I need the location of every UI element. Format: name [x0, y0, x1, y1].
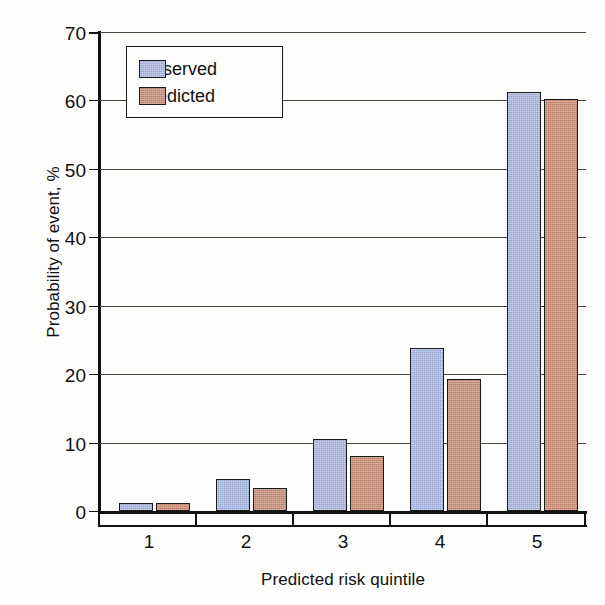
y-axis-spine	[98, 31, 101, 512]
y-tick-label-0: 0	[16, 503, 86, 522]
y-tick-60	[89, 100, 100, 101]
bar-observed-5	[507, 92, 541, 511]
x-tick-label-2: 2	[216, 532, 276, 551]
bar-predicted-5	[544, 99, 578, 511]
x-tick-label-1: 1	[119, 532, 179, 551]
bar-chart-figure: Probability of event, % Predicted risk q…	[0, 0, 605, 605]
bar-observed-1	[119, 503, 153, 511]
gridline-70	[100, 32, 586, 33]
y-tick-30	[89, 306, 100, 307]
x-axis-baseline	[98, 525, 587, 527]
legend-item-predicted: Predicted	[139, 82, 282, 109]
bar-observed-3	[313, 439, 347, 511]
bar-predicted-2	[253, 488, 287, 511]
x-tick-label-5: 5	[507, 532, 567, 551]
bar-predicted-1	[156, 503, 190, 511]
x-tick-1	[195, 514, 197, 526]
legend-swatch-observed-icon	[139, 60, 166, 78]
y-tick-label-70: 70	[16, 24, 86, 43]
x-tick-3	[389, 514, 391, 526]
x-tick-start	[98, 514, 100, 526]
y-tick-40	[89, 237, 100, 238]
x-axis-title: Predicted risk quintile	[100, 570, 586, 590]
bar-predicted-3	[350, 456, 384, 511]
y-tick-70	[89, 32, 100, 34]
legend-swatch-predicted-icon	[139, 87, 166, 105]
x-tick-label-4: 4	[410, 532, 470, 551]
y-tick-label-10: 10	[16, 435, 86, 454]
x-axis-spine	[98, 511, 587, 514]
x-tick-end	[584, 514, 586, 526]
bar-observed-4	[410, 348, 444, 511]
y-tick-50	[89, 169, 100, 170]
y-tick-0	[89, 511, 100, 512]
x-tick-4	[486, 514, 488, 526]
y-tick-10	[89, 443, 100, 444]
y-tick-20	[89, 374, 100, 375]
x-tick-label-3: 3	[313, 532, 373, 551]
y-axis-title: Probability of event, %	[44, 102, 64, 402]
bar-predicted-4	[447, 379, 481, 511]
chart-legend: Observed Predicted	[126, 46, 283, 118]
bar-observed-2	[216, 479, 250, 511]
x-tick-2	[292, 514, 294, 526]
legend-item-observed: Observed	[139, 55, 282, 82]
